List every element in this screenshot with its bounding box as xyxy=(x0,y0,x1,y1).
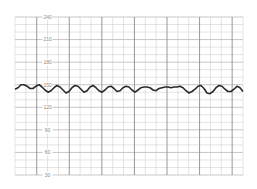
y-tick-label: 30 xyxy=(45,172,51,178)
y-tick-label: 120 xyxy=(43,104,52,110)
y-tick-label: 60 xyxy=(45,149,51,155)
y-tick-label: 150 xyxy=(43,82,52,88)
ctg-chart: 240210180150120906030 xyxy=(0,0,257,189)
y-tick-label: 90 xyxy=(45,127,51,133)
y-tick-label: 210 xyxy=(43,36,52,42)
y-tick-label: 180 xyxy=(43,59,52,65)
y-tick-label: 240 xyxy=(43,14,52,20)
